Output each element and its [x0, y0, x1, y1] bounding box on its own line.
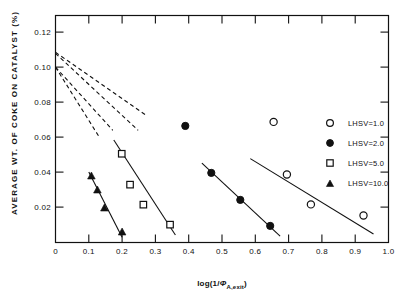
legend-marker-filled-circle-icon	[327, 140, 334, 147]
x-tick-label: 0.9	[349, 247, 361, 256]
legend-marker-filled-triangle-icon	[326, 180, 333, 187]
chart-svg: 0.12 0.10 0.08 0.06 0.04 0.02	[0, 0, 414, 305]
y-tick-label: 0.08	[34, 98, 51, 107]
data-point	[167, 221, 174, 228]
y-tick-label: 0.02	[34, 203, 51, 212]
x-tick-label: 0	[53, 247, 58, 256]
trendline-lhsv-10	[89, 172, 122, 237]
y-axis-label: AVERAGE WT. OF COKE ON CATALYST (%)	[10, 11, 19, 215]
extrapolation-line	[56, 53, 139, 130]
legend-label-lhsv-10: LHSV=10.0	[348, 179, 388, 188]
x-axis-ticks	[89, 16, 355, 243]
extrapolation-lines	[56, 52, 147, 137]
x-tick-label: 0.4	[183, 247, 195, 256]
x-axis-tick-labels: 0 0.1 0.2 0.3 0.4 0.5 0.6 0.7 0.8 0.9 1.…	[53, 247, 395, 256]
trend-lines	[89, 140, 374, 237]
data-point	[94, 186, 102, 193]
data-point	[307, 201, 314, 208]
legend: LHSV=1.0 LHSV=2.0 LHSV=5.0 LHSV=10.0	[326, 119, 388, 188]
legend-label-lhsv-2: LHSV=2.0	[348, 139, 384, 148]
data-point	[119, 151, 126, 158]
x-tick-label: 0.7	[283, 247, 295, 256]
x-axis-label: log(1/ΦA,exit)	[197, 279, 247, 290]
y-tick-label: 0.10	[34, 63, 51, 72]
data-point	[237, 196, 244, 203]
y-tick-label: 0.04	[34, 168, 51, 177]
series-lhsv-1-points	[270, 118, 367, 219]
x-tick-label: 1.0	[382, 247, 394, 256]
x-tick-label: 0.6	[249, 247, 261, 256]
legend-label-lhsv-5: LHSV=5.0	[348, 159, 384, 168]
y-tick-label: 0.12	[34, 28, 51, 37]
data-point	[267, 222, 274, 229]
y-axis-tick-labels: 0.12 0.10 0.08 0.06 0.04 0.02	[34, 28, 51, 212]
y-axis-ticks	[56, 32, 389, 207]
chart-figure: 0.12 0.10 0.08 0.06 0.04 0.02	[0, 0, 414, 305]
data-point	[182, 122, 189, 129]
legend-marker-open-square-icon	[327, 160, 333, 166]
data-point	[140, 201, 147, 208]
extrapolation-line	[56, 52, 147, 115]
x-axis-label-text: log(1/ΦA,exit)	[197, 279, 247, 290]
series-lhsv-2-points	[182, 122, 274, 229]
x-tick-label: 0.8	[316, 247, 328, 256]
x-tick-label: 0.1	[83, 247, 95, 256]
data-point	[283, 171, 290, 178]
data-point	[127, 181, 134, 188]
legend-label-lhsv-1: LHSV=1.0	[348, 119, 384, 128]
y-tick-label: 0.06	[34, 133, 51, 142]
data-point	[270, 118, 277, 125]
x-tick-label: 0.5	[216, 247, 228, 256]
legend-marker-open-circle-icon	[327, 120, 334, 127]
x-tick-label: 0.2	[116, 247, 128, 256]
data-point	[360, 212, 367, 219]
data-point	[208, 169, 215, 176]
y-axis-label-text: AVERAGE WT. OF COKE ON CATALYST (%)	[10, 11, 19, 215]
x-tick-label: 0.3	[149, 247, 161, 256]
